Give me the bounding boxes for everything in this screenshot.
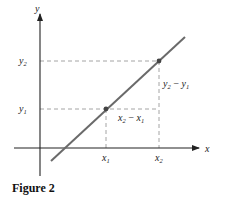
dashed-guides xyxy=(40,61,159,148)
y2-label: y2 xyxy=(18,55,27,67)
x1-label: x1 xyxy=(101,152,110,164)
slope-diagram: y x y2 y1 x1 x2 x2−x1 y2−y1 Figure 2 xyxy=(0,0,232,207)
x-axis-label: x xyxy=(204,143,210,154)
y1-label: y1 xyxy=(18,103,27,115)
figure-caption: Figure 2 xyxy=(12,181,55,195)
rise-label: y2−y1 xyxy=(162,78,189,90)
point-1 xyxy=(104,107,109,112)
line-through-points xyxy=(51,37,185,161)
run-label: x2−x1 xyxy=(117,112,144,124)
y-axis-label: y xyxy=(34,3,40,14)
x2-label: x2 xyxy=(154,152,163,164)
point-2 xyxy=(157,59,162,64)
